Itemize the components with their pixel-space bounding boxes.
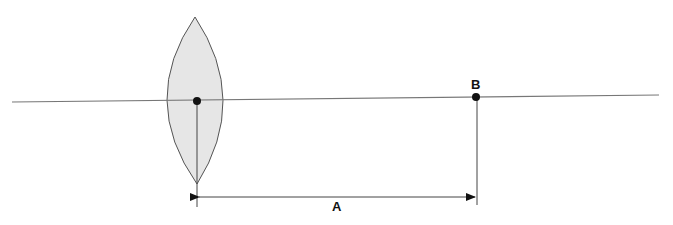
distance-label: A (332, 199, 342, 214)
point-b (472, 93, 480, 101)
lens-center-point (193, 97, 201, 105)
optical-axis (12, 95, 659, 102)
point-b-label: B (471, 77, 480, 92)
lens-diagram: B A (0, 0, 673, 225)
